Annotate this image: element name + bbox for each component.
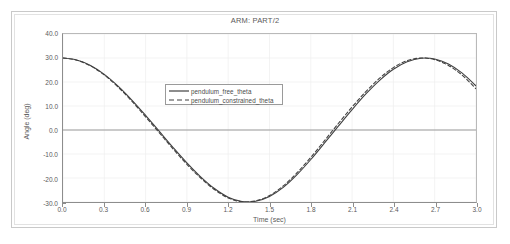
y-tick-label: 10.0 <box>45 102 58 109</box>
x-tick-label: 0.9 <box>182 206 191 213</box>
legend-label-constrained: pendulum_constrained_theta <box>191 97 274 104</box>
x-tick-mark <box>104 203 105 207</box>
y-tick-label: 0.0 <box>49 127 58 134</box>
x-tick-mark <box>145 203 146 207</box>
y-tick-label: -20.0 <box>43 175 58 182</box>
legend-label-free: pendulum_free_theta <box>191 88 251 95</box>
x-tick-mark <box>477 203 478 207</box>
x-tick-label: 2.4 <box>389 206 398 213</box>
x-tick-mark <box>436 203 437 207</box>
legend-item-constrained[interactable]: pendulum_constrained_theta <box>169 96 279 104</box>
x-axis-label: Time (sec) <box>62 216 477 223</box>
x-tick-mark <box>353 203 354 207</box>
x-tick-mark <box>311 203 312 207</box>
x-tick-mark <box>228 203 229 207</box>
y-axis-label: Angle (deg) <box>23 92 30 152</box>
x-tick-label: 1.2 <box>223 206 232 213</box>
chart-title: ARM: PART/2 <box>0 16 510 25</box>
x-tick-mark <box>394 203 395 207</box>
x-tick-label: 0.6 <box>140 206 149 213</box>
legend-item-free[interactable]: pendulum_free_theta <box>169 87 279 95</box>
chart-window: ARM: PART/2 40.030.020.010.00.0-10.0-20.… <box>0 0 510 244</box>
y-axis-tick-labels: 40.030.020.010.00.0-10.0-20.0-30.0 <box>30 33 58 203</box>
x-tick-mark <box>270 203 271 207</box>
legend-line-solid-icon <box>169 88 189 94</box>
x-tick-mark <box>187 203 188 207</box>
x-tick-label: 0.0 <box>57 206 66 213</box>
x-tick-label: 2.1 <box>348 206 357 213</box>
x-tick-label: 3.0 <box>472 206 481 213</box>
x-tick-mark <box>62 203 63 207</box>
legend-line-dashed-icon <box>169 97 189 103</box>
x-tick-label: 2.7 <box>431 206 440 213</box>
chart-legend: pendulum_free_theta pendulum_constrained… <box>165 84 283 105</box>
plot-canvas <box>63 34 476 202</box>
x-tick-label: 1.8 <box>306 206 315 213</box>
y-tick-label: 30.0 <box>45 54 58 61</box>
y-tick-label: 20.0 <box>45 78 58 85</box>
y-tick-label: 40.0 <box>45 30 58 37</box>
plot-area <box>62 33 477 203</box>
x-tick-label: 0.3 <box>99 206 108 213</box>
y-tick-label: -10.0 <box>43 151 58 158</box>
x-tick-label: 1.5 <box>265 206 274 213</box>
